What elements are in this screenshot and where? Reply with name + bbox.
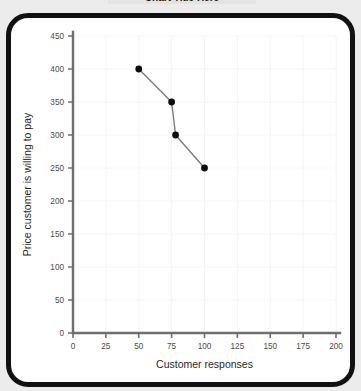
y-tick-label: 250: [50, 164, 64, 173]
chart-card: 0501001502002503003504004500255075100125…: [6, 13, 355, 387]
y-tick-label: 400: [50, 65, 64, 74]
x-tick-label: 100: [198, 342, 212, 351]
x-axis-title: Customer responses: [156, 358, 253, 370]
x-tick-label: 50: [134, 342, 144, 351]
y-tick-label: 350: [50, 98, 64, 107]
y-tick-label: 150: [50, 230, 64, 239]
x-tick-label: 175: [296, 342, 310, 351]
data-point-marker: [172, 132, 179, 139]
y-tick-label: 50: [55, 296, 65, 305]
scatter-line-chart: 0501001502002503003504004500255075100125…: [11, 18, 350, 382]
chart-title-text: Chart Title Here: [108, 0, 256, 4]
x-tick-label: 150: [263, 342, 277, 351]
plot-area: 0501001502002503003504004500255075100125…: [11, 18, 350, 382]
x-tick-label: 0: [71, 342, 76, 351]
data-point-marker: [135, 66, 142, 73]
x-tick-label: 200: [329, 342, 343, 351]
chart-title-banner: Chart Title Here: [108, 0, 256, 4]
y-tick-label: 200: [50, 197, 64, 206]
data-point-marker: [201, 165, 208, 172]
y-axis-title: Price customer is willing to pay: [21, 112, 33, 256]
y-tick-label: 0: [59, 329, 64, 338]
x-tick-label: 75: [167, 342, 177, 351]
x-tick-label: 125: [231, 342, 245, 351]
data-point-marker: [168, 99, 175, 106]
x-tick-label: 25: [101, 342, 111, 351]
y-tick-label: 450: [50, 32, 64, 41]
y-tick-label: 100: [50, 263, 64, 272]
y-tick-label: 300: [50, 131, 64, 140]
